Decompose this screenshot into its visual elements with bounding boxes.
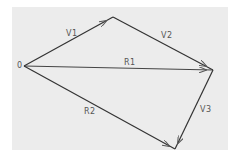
origin-label: 0 — [17, 62, 23, 70]
vector-r1 — [24, 66, 213, 70]
vector-v1 — [24, 17, 113, 66]
r2-label: R2 — [84, 108, 96, 116]
v2-label: V2 — [161, 32, 173, 40]
vector-diagram — [0, 0, 238, 159]
r1-label: R1 — [124, 59, 136, 67]
v3-label: V3 — [200, 106, 212, 114]
v1-label: V1 — [66, 30, 78, 38]
vector-r2 — [24, 66, 175, 149]
